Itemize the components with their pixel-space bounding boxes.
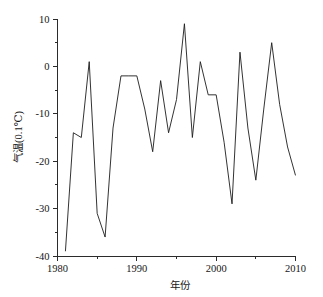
y-tick-label: -20 [36,156,50,167]
x-tick-label: 2000 [206,263,227,274]
x-axis-tick-labels: 1980199020002010 [47,263,306,274]
data-series-line-0 [65,24,295,252]
x-tick-label: 2010 [285,263,306,274]
y-tick-label: -10 [36,108,50,119]
line-chart-canvas: 100-10-20-30-40 1980199020002010 年份 气温(0… [0,0,323,297]
y-tick-label: 10 [39,14,50,25]
x-tick-label: 1980 [47,263,68,274]
chart-figure: 100-10-20-30-40 1980199020002010 年份 气温(0… [0,0,323,297]
y-axis-tick-labels: 100-10-20-30-40 [36,14,50,262]
y-tick-label: 0 [44,61,49,72]
y-tick-label: -30 [36,203,50,214]
x-axis-title: 年份 [170,279,191,291]
y-tick-label: -40 [36,251,50,262]
data-series-group [65,24,295,252]
y-axis-title: 气温(0.1℃) [12,111,25,163]
x-tick-label: 1990 [126,263,147,274]
